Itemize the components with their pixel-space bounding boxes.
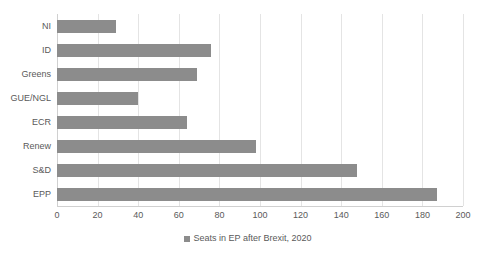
- bar[interactable]: [57, 92, 138, 105]
- bar-row[interactable]: [57, 43, 463, 57]
- category-label: NI: [0, 21, 51, 31]
- bar[interactable]: [57, 68, 197, 81]
- x-tick-label: 0: [54, 209, 59, 221]
- bar[interactable]: [57, 164, 357, 177]
- category-label: ECR: [0, 117, 51, 127]
- bar-row[interactable]: [57, 139, 463, 153]
- legend-item: Seats in EP after Brexit, 2020: [184, 233, 312, 244]
- legend-swatch-icon: [184, 236, 190, 242]
- x-tick-label: 80: [214, 209, 224, 221]
- x-tick-label: 20: [93, 209, 103, 221]
- bar[interactable]: [57, 116, 187, 129]
- category-label: Renew: [0, 141, 51, 151]
- x-tick-label: 120: [293, 209, 308, 221]
- chart-legend: Seats in EP after Brexit, 2020: [0, 233, 495, 244]
- bar[interactable]: [57, 188, 437, 201]
- x-tick-label: 60: [174, 209, 184, 221]
- bar-series: [57, 14, 463, 206]
- x-tick-label: 40: [133, 209, 143, 221]
- x-tick-label: 100: [252, 209, 267, 221]
- bar[interactable]: [57, 44, 211, 57]
- category-label: EPP: [0, 189, 51, 199]
- bar-row[interactable]: [57, 91, 463, 105]
- bar[interactable]: [57, 20, 116, 33]
- plot-area: [57, 14, 463, 206]
- category-label: GUE/NGL: [0, 93, 51, 103]
- bar-row[interactable]: [57, 163, 463, 177]
- bar-row[interactable]: [57, 187, 463, 201]
- category-label: S&D: [0, 165, 51, 175]
- bar-row[interactable]: [57, 115, 463, 129]
- y-axis-category-labels: NIIDGreensGUE/NGLECRRenewS&DEPP: [0, 14, 51, 206]
- x-tick-label: 180: [415, 209, 430, 221]
- category-label: ID: [0, 45, 51, 55]
- bar-row[interactable]: [57, 19, 463, 33]
- x-tick-label: 160: [374, 209, 389, 221]
- bar-chart: NIIDGreensGUE/NGLECRRenewS&DEPP 02040608…: [0, 0, 495, 260]
- x-axis-tick-labels: 020406080100120140160180200: [57, 209, 463, 223]
- category-label: Greens: [0, 69, 51, 79]
- gridline: [463, 14, 464, 206]
- legend-label: Seats in EP after Brexit, 2020: [194, 233, 312, 244]
- x-axis-line: [57, 206, 463, 207]
- x-tick-label: 140: [334, 209, 349, 221]
- x-tick-label: 200: [455, 209, 470, 221]
- bar-row[interactable]: [57, 67, 463, 81]
- bar[interactable]: [57, 140, 256, 153]
